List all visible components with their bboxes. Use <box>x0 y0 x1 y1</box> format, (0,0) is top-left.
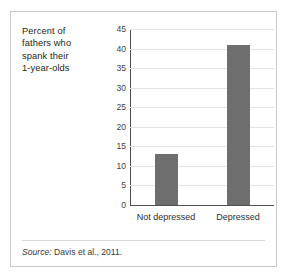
gridline <box>130 68 274 69</box>
caption-line-4: 1-year-olds <box>22 62 100 74</box>
chart-axes: 051015202530354045Not depressedDepressed <box>130 29 274 206</box>
source-text: Davis et al., 2011. <box>54 247 122 257</box>
source-note: Source: Davis et al., 2011. <box>22 248 122 257</box>
caption-line-1: Percent of <box>22 25 100 37</box>
bar <box>155 154 178 205</box>
x-category-label: Depressed <box>216 213 260 222</box>
chart-caption: Percent of fathers who spank their 1-yea… <box>22 25 100 75</box>
x-axis-line <box>130 205 274 206</box>
caption-line-2: fathers who <box>22 37 100 49</box>
x-category-label: Not depressed <box>137 213 196 222</box>
y-tick-label: 35 <box>116 64 126 73</box>
gridline <box>130 88 274 89</box>
bar-chart-plot: 051015202530354045Not depressedDepressed <box>110 26 274 218</box>
gridline <box>130 29 274 30</box>
y-tick-label: 10 <box>116 162 126 171</box>
gridline <box>130 49 274 50</box>
source-label: Source: <box>22 247 52 257</box>
gridline <box>130 146 274 147</box>
y-tick-label: 30 <box>116 83 126 92</box>
bar <box>227 45 250 205</box>
gridline <box>130 127 274 128</box>
y-tick-label: 15 <box>116 142 126 151</box>
y-axis-line <box>130 29 131 206</box>
y-tick-label: 20 <box>116 122 126 131</box>
caption-line-3: spank their <box>22 50 100 62</box>
y-tick-label: 25 <box>116 103 126 112</box>
y-tick-label: 45 <box>116 25 126 34</box>
gridline <box>130 107 274 108</box>
y-tick-label: 0 <box>121 201 126 210</box>
source-divider <box>22 240 265 241</box>
y-tick-label: 40 <box>116 44 126 53</box>
figure-frame: Percent of fathers who spank their 1-yea… <box>10 11 277 267</box>
y-tick-label: 5 <box>121 181 126 190</box>
gridline <box>130 166 274 167</box>
gridline <box>130 185 274 186</box>
